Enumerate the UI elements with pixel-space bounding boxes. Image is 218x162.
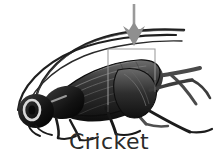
figure-caption: Cricket xyxy=(0,128,218,156)
pointer-arrow xyxy=(123,4,145,46)
cricket-figure: Cricket xyxy=(0,0,218,162)
